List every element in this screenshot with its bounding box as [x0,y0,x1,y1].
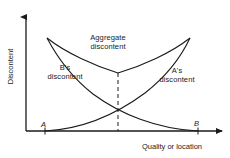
discontent-figure: Discontent Quality or location Aggregate… [0,0,230,158]
aggregate-curve-label: Aggregate discontent [72,33,144,51]
aggregate-label-line2: discontent [72,42,144,51]
b-label-line1: B's [36,63,94,72]
a-label-line1: A's [148,66,206,75]
aggregate-label-line1: Aggregate [72,33,144,42]
a-curve-label: A's discontent [148,66,206,84]
x-axis-label: Quality or location [120,142,224,151]
point-a-label: A [41,120,46,129]
curve-b-discontent [47,38,198,131]
b-curve-label: B's discontent [36,63,94,81]
point-b-label: B [194,119,199,128]
b-label-line2: discontent [36,72,94,81]
a-label-line2: discontent [148,75,206,84]
y-axis-label: Discontent [6,37,15,97]
